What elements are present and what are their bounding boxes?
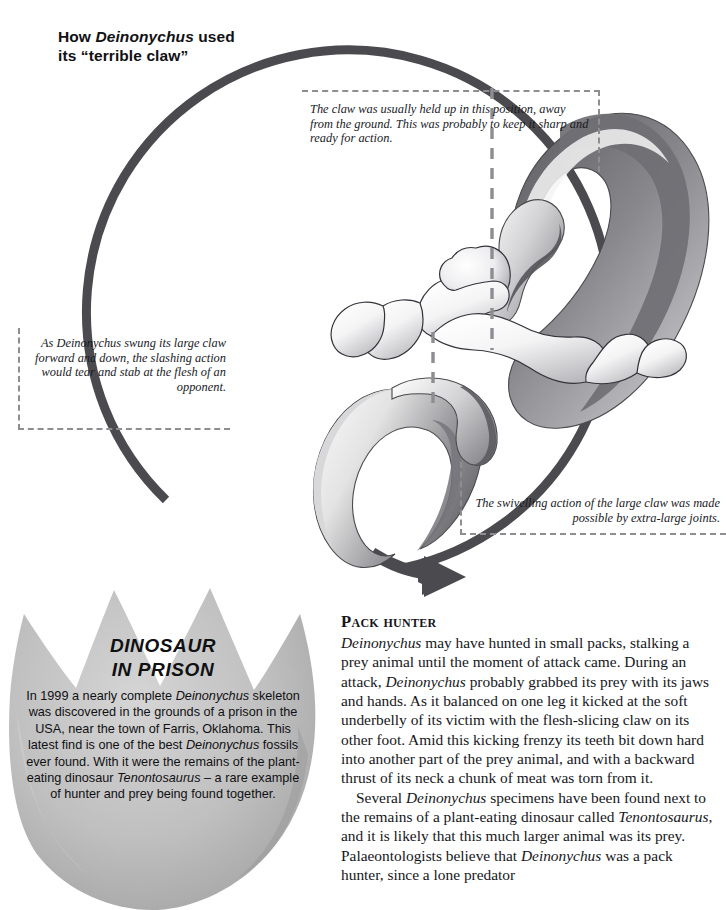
- article-p1-species2: Deinonychus: [385, 673, 465, 690]
- prison-panel-heading: DINOSAUR IN PRISON: [24, 634, 302, 682]
- article-p1-species1: Deinonychus: [341, 634, 421, 651]
- prison-heading-line1: DINOSAUR: [110, 635, 216, 656]
- article-p2-species3: Deinonychus: [521, 847, 601, 864]
- dinosaur-in-prison-panel: DINOSAUR IN PRISON In 1999 a nearly comp…: [2, 576, 320, 910]
- prison-body-species2: Deinonychus: [186, 738, 259, 752]
- callout-claw-held-up-text: The claw was usually held up in this pos…: [310, 102, 590, 146]
- article-p2-a: Several: [356, 789, 406, 806]
- article-heading: Pack hunter: [341, 612, 719, 632]
- prison-body-species1: Deinonychus: [176, 689, 249, 703]
- article-p2-species2: Tenontosaurus: [618, 808, 708, 825]
- callout-swivelling-joints-text: The swivelling action of the large claw …: [472, 496, 720, 525]
- article-paragraph-2: Several Deinonychus specimens have been …: [341, 788, 719, 885]
- prison-heading-line2: IN PRISON: [112, 659, 215, 680]
- prison-panel-content: DINOSAUR IN PRISON In 1999 a nearly comp…: [24, 634, 302, 803]
- callout-claw-held-up: The claw was usually held up in this pos…: [302, 90, 600, 172]
- article-paragraph-1: Deinonychus may have hunted in small pac…: [341, 633, 719, 788]
- callout-slashing-action: As Deinonychus swung its large claw forw…: [18, 328, 230, 430]
- prison-body-species3: Tenontosaurus: [117, 771, 200, 785]
- callout-slashing-action-text: As Deinonychus swung its large claw forw…: [30, 336, 226, 394]
- article-p2-species1: Deinonychus: [406, 789, 486, 806]
- callout-swivelling-joints: The swivelling action of the large claw …: [460, 462, 726, 535]
- prison-body-part1: In 1999 a nearly complete: [26, 689, 176, 703]
- prison-panel-body: In 1999 a nearly complete Deinonychus sk…: [24, 688, 302, 803]
- pack-hunter-article: Pack hunter Deinonychus may have hunted …: [341, 612, 719, 884]
